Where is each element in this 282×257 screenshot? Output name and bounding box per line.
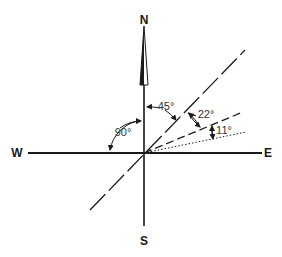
east-label: E (264, 146, 272, 160)
arc-11-degrees (212, 126, 213, 139)
angle-label-90: 90° (115, 126, 132, 138)
west-label: W (11, 146, 23, 160)
north-label: N (140, 13, 149, 27)
angle-label-22: 22° (198, 108, 215, 120)
angle-label-45: 45° (158, 100, 175, 112)
angle-label-11: 11° (216, 124, 232, 136)
compass-angle-diagram: N S E W 90° 45° 22° 11° (0, 0, 282, 257)
north-arrow-icon (140, 26, 148, 85)
south-label: S (140, 234, 148, 248)
